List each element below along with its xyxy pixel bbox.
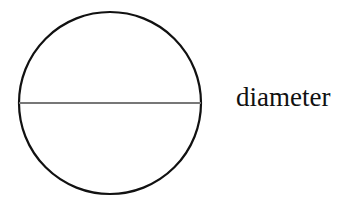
diameter-label: diameter [236, 84, 330, 111]
